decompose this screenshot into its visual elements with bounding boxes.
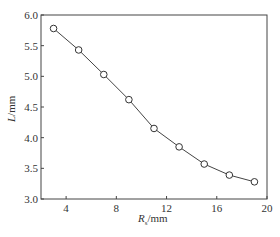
x-tick-label: 8: [114, 202, 120, 214]
data-point-marker: [50, 25, 57, 32]
data-line: [54, 28, 255, 181]
data-point-marker: [151, 125, 158, 132]
data-points: [50, 25, 257, 185]
x-tick-label: 4: [63, 202, 69, 214]
x-tick-label: 16: [211, 202, 223, 214]
data-point-marker: [126, 96, 133, 103]
y-tick-label: 4.0: [24, 132, 38, 144]
line-chart: 3.03.54.04.55.05.56.0 48121620 Rs/mm L/m…: [0, 0, 280, 237]
data-point-marker: [176, 144, 183, 151]
data-point-marker: [251, 179, 258, 186]
data-point-marker: [226, 172, 233, 179]
chart: 3.03.54.04.55.05.56.0 48121620 Rs/mm L/m…: [0, 0, 280, 237]
y-tick-label: 5.5: [24, 40, 38, 52]
data-point-marker: [75, 47, 82, 54]
data-point-marker: [201, 161, 208, 168]
y-tick-label: 6.0: [24, 9, 38, 21]
y-axis-label: L/mm: [5, 95, 17, 123]
data-point-marker: [100, 71, 107, 78]
x-axis-label: Rs/mm: [137, 212, 168, 227]
x-tick-label: 20: [262, 202, 274, 214]
plot-frame: [41, 15, 267, 199]
y-tick-label: 4.5: [24, 101, 38, 113]
y-tick-label: 5.0: [24, 70, 38, 82]
y-tick-label: 3.0: [24, 193, 38, 205]
y-tick-label: 3.5: [24, 162, 38, 174]
